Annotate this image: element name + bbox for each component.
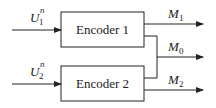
svg-text:1: 1 [179, 13, 184, 23]
output-m0-label: M 0 [167, 39, 184, 56]
encoder-2-label: Encoder 2 [76, 76, 129, 91]
encoder-1-label: Encoder 1 [76, 22, 129, 37]
input-2-label: U 2 n [30, 59, 45, 81]
output-m2-label: M 2 [167, 72, 184, 89]
svg-text:2: 2 [39, 71, 44, 81]
common-message-connector [144, 36, 157, 78]
encoder-1-block: Encoder 1 [61, 12, 144, 47]
svg-text:2: 2 [179, 79, 184, 89]
svg-text:1: 1 [39, 17, 44, 27]
output-m1-label: M 1 [167, 6, 184, 23]
input-1-label: U 1 n [30, 5, 45, 27]
svg-text:n: n [40, 59, 45, 69]
encoder-diagram: Encoder 1 Encoder 2 U 1 n U 2 n M 1 M 0 … [0, 0, 216, 108]
svg-text:0: 0 [179, 46, 184, 56]
svg-text:n: n [40, 5, 45, 15]
encoder-2-block: Encoder 2 [61, 66, 144, 101]
